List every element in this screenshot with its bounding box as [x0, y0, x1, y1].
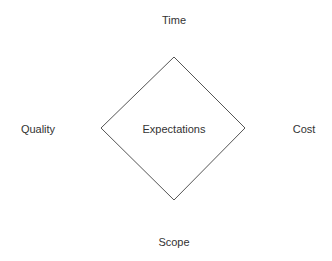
- label-quality: Quality: [21, 123, 55, 136]
- label-expectations: Expectations: [143, 123, 206, 136]
- label-scope: Scope: [158, 236, 189, 249]
- label-cost: Cost: [293, 123, 316, 136]
- label-time: Time: [162, 14, 186, 27]
